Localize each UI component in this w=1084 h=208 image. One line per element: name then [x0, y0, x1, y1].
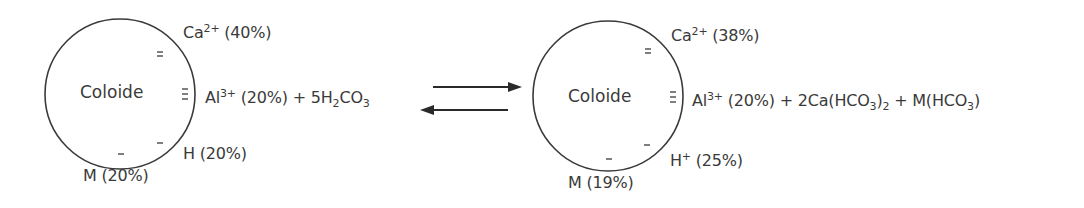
colloid-label-left: Coloide	[80, 82, 143, 102]
h-label-left: H (20%)	[183, 145, 247, 163]
al-equation-right: Al3+ (20%) + 2Ca(HCO3)2 + M(HCO3)	[692, 92, 980, 110]
m-label-left: M (20%)	[83, 167, 149, 185]
ca-label-right: Ca2+ (38%)	[671, 27, 759, 45]
m-label-right: M (19%)	[568, 174, 634, 192]
al-equation-left: Al3+ (20%) + 5H2CO3	[205, 89, 370, 107]
negative-charges-left	[118, 52, 188, 154]
colloid-label-right: Coloide	[568, 86, 631, 106]
equilibrium-arrows	[420, 82, 522, 115]
h-label-right: H+ (25%)	[670, 152, 743, 170]
ca-label-left: Ca2+ (40%)	[183, 24, 271, 42]
